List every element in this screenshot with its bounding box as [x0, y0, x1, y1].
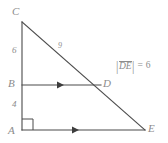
parallel-arrow-marker-ae: [72, 126, 79, 133]
equals-sign: =: [137, 61, 142, 71]
vertex-label-b: B: [8, 78, 15, 89]
vertex-label-c: C: [12, 6, 19, 17]
geometry-figure: C B A D E 6 4 9 | DE | = 6: [0, 0, 168, 143]
segment-ce: [22, 22, 145, 130]
vertex-label-e: E: [148, 123, 155, 134]
vertex-label-a: A: [8, 125, 15, 136]
length-label-cd: 9: [58, 42, 62, 50]
de-length-annotation: | DE | = 6: [116, 60, 151, 72]
abs-bar-right: |: [132, 59, 134, 74]
length-label-ba: 4: [12, 100, 17, 109]
abs-bar-left: |: [116, 59, 118, 74]
vertex-label-d: D: [103, 78, 111, 89]
length-label-cb: 6: [12, 46, 17, 55]
de-value: 6: [146, 61, 151, 71]
parallel-arrow-marker-bd: [57, 81, 64, 88]
segment-overline-de: DE: [119, 61, 132, 72]
right-angle-marker-icon: [22, 119, 33, 130]
